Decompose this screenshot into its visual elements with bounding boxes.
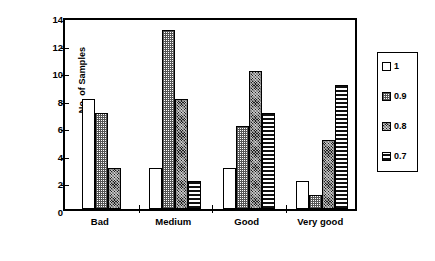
y-axis-tick-label: 4 bbox=[33, 153, 63, 163]
legend-item[interactable]: 0.9 bbox=[382, 92, 407, 101]
y-axis-tick-mark bbox=[61, 130, 69, 131]
chart-legend: 10.90.80.7 bbox=[377, 52, 418, 172]
y-axis-tick-mark bbox=[61, 185, 69, 186]
x-axis-tick-mark bbox=[139, 205, 140, 213]
x-axis-category-label: Very good bbox=[275, 216, 365, 227]
bar bbox=[296, 181, 309, 209]
legend-swatch-icon bbox=[382, 122, 391, 131]
y-axis-tick-mark bbox=[61, 48, 69, 49]
y-axis-tick-label: 6 bbox=[33, 125, 63, 135]
legend-swatch-icon bbox=[382, 92, 391, 101]
legend-label: 0.9 bbox=[394, 92, 407, 101]
legend-swatch-icon bbox=[382, 62, 391, 71]
bar bbox=[188, 181, 201, 209]
y-axis-tick-label: 10 bbox=[33, 70, 63, 80]
bar bbox=[309, 195, 322, 209]
bar bbox=[175, 99, 188, 209]
bar bbox=[82, 99, 95, 209]
y-axis-tick-mark bbox=[61, 103, 69, 104]
y-axis-tick-mark bbox=[61, 75, 69, 76]
plot-area: No. of Samples 02468101214 bbox=[63, 18, 357, 211]
bar bbox=[162, 30, 175, 209]
legend-item[interactable]: 0.7 bbox=[382, 152, 407, 161]
bar bbox=[108, 168, 121, 209]
y-axis-tick-label: 14 bbox=[33, 15, 63, 25]
bar bbox=[236, 126, 249, 209]
bar bbox=[223, 168, 236, 209]
bar bbox=[335, 85, 348, 209]
y-axis-tick-label: 12 bbox=[33, 43, 63, 53]
legend-label: 0.8 bbox=[394, 122, 407, 131]
legend-item[interactable]: 0.8 bbox=[382, 122, 407, 131]
legend-item[interactable]: 1 bbox=[382, 62, 399, 71]
y-axis-tick-label: 8 bbox=[33, 98, 63, 108]
bar bbox=[95, 113, 108, 210]
legend-label: 1 bbox=[394, 62, 399, 71]
bar bbox=[249, 71, 262, 209]
bar bbox=[149, 168, 162, 209]
x-axis-tick-mark bbox=[286, 205, 287, 213]
y-axis-tick-mark bbox=[61, 158, 69, 159]
legend-swatch-icon bbox=[382, 152, 391, 161]
x-axis-tick-mark bbox=[212, 205, 213, 213]
y-axis-tick-label: 2 bbox=[33, 180, 63, 190]
bar bbox=[322, 140, 335, 209]
legend-label: 0.7 bbox=[394, 152, 407, 161]
chart-page: No. of Samples 02468101214 BadMediumGood… bbox=[0, 0, 435, 261]
bar bbox=[262, 113, 275, 210]
